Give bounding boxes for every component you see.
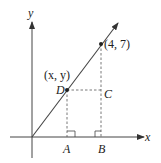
right-angle-B — [95, 131, 101, 137]
point-C-label: C — [104, 87, 113, 101]
diagram-canvas: y x (4, 7) (x, y) D C A B — [0, 0, 161, 163]
x-axis-label: x — [144, 130, 151, 144]
point-4-7 — [99, 42, 103, 46]
point-B-label: B — [98, 142, 106, 156]
right-angle-A — [67, 131, 75, 137]
point-D-label: D — [55, 83, 65, 97]
y-axis-label: y — [27, 6, 34, 20]
point-D — [65, 88, 69, 92]
point-D-coord-label: (x, y) — [44, 68, 70, 82]
point-A-label: A — [62, 142, 71, 156]
point-4-7-label: (4, 7) — [104, 37, 130, 51]
